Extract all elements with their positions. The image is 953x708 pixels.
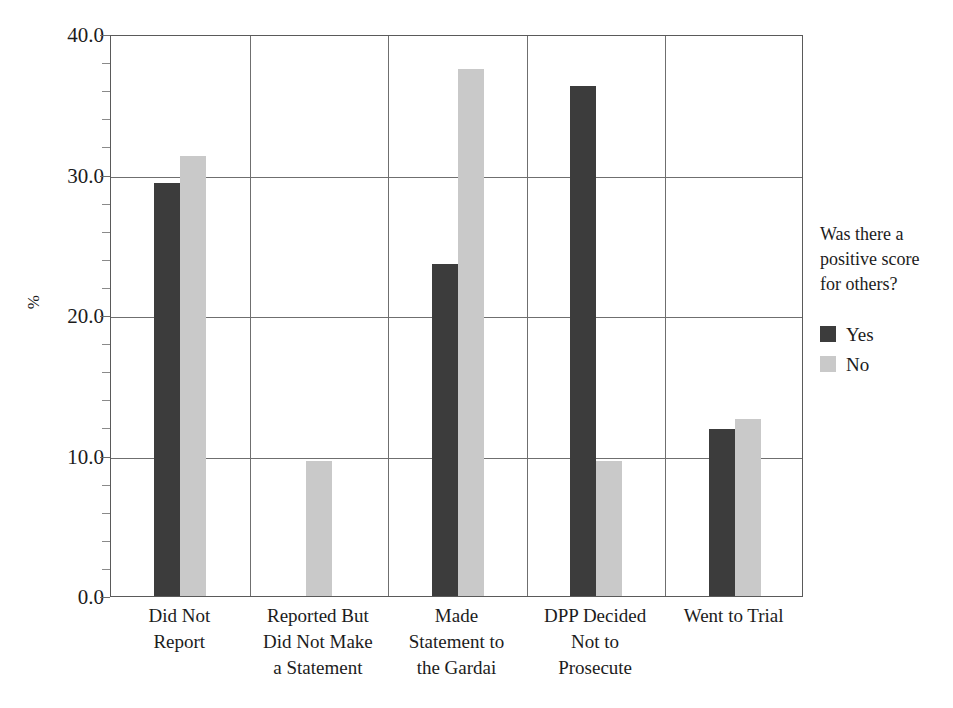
x-axis-label-line: the Gardai [387, 655, 526, 681]
x-axis-label: Did NotReport [110, 603, 249, 655]
legend-label: No [846, 355, 869, 374]
legend-title-line: positive score [820, 247, 950, 272]
x-axis-label-line: a Statement [249, 655, 388, 681]
x-axis-label: Reported ButDid Not Makea Statement [249, 603, 388, 681]
y-tick-label: 0.0 [28, 587, 104, 608]
y-axis-tick-labels: 40.030.020.010.00.0 [28, 0, 104, 708]
x-axis-label-line: Went to Trial [664, 603, 803, 629]
bar-no [458, 69, 484, 596]
x-axis-label-line: Did Not [110, 603, 249, 629]
x-axis-label-line: Did Not Make [249, 629, 388, 655]
y-tick-label: 40.0 [28, 25, 104, 46]
x-axis-category-labels: Did NotReportReported ButDid Not Makea S… [110, 603, 803, 703]
category-divider [250, 36, 251, 596]
bar-yes [432, 264, 458, 596]
x-axis-label-line: DPP Decided [526, 603, 665, 629]
x-axis-label-line: Not to [526, 629, 665, 655]
x-axis-label-line: Statement to [387, 629, 526, 655]
legend-item-no[interactable]: No [820, 349, 950, 379]
category-divider [388, 36, 389, 596]
chart-legend: Was there apositive scorefor others? Yes… [820, 222, 950, 379]
legend-entries: YesNo [820, 319, 950, 379]
x-axis-label: MadeStatement tothe Gardai [387, 603, 526, 681]
y-tick-label: 10.0 [28, 446, 104, 467]
x-axis-label: Went to Trial [664, 603, 803, 629]
x-axis-label: DPP DecidedNot toProsecute [526, 603, 665, 681]
category-divider [665, 36, 666, 596]
plot-area [110, 35, 803, 597]
bar-yes [709, 429, 735, 596]
y-tick-label: 30.0 [28, 165, 104, 186]
legend-title-line: for others? [820, 272, 950, 297]
category-divider [527, 36, 528, 596]
bar-yes [154, 183, 180, 596]
bar-yes [570, 86, 596, 596]
bar-no [735, 419, 761, 596]
x-axis-label-line: Made [387, 603, 526, 629]
legend-swatch-icon [820, 356, 836, 372]
y-tick-label: 20.0 [28, 306, 104, 327]
legend-title-line: Was there a [820, 222, 950, 247]
x-axis-label-line: Report [110, 629, 249, 655]
bar-no [596, 461, 622, 596]
bar-no [306, 461, 332, 596]
gridline [111, 177, 802, 178]
legend-item-yes[interactable]: Yes [820, 319, 950, 349]
legend-label: Yes [846, 325, 874, 344]
bar-no [180, 156, 206, 596]
bar-chart-figure: % 40.030.020.010.00.0 Did NotReportRepor… [0, 0, 953, 708]
x-axis-label-line: Reported But [249, 603, 388, 629]
legend-swatch-icon [820, 326, 836, 342]
legend-title: Was there apositive scorefor others? [820, 222, 950, 297]
x-axis-label-line: Prosecute [526, 655, 665, 681]
